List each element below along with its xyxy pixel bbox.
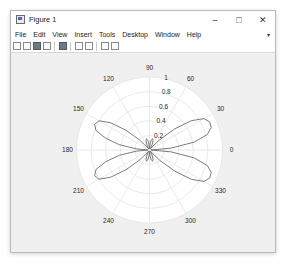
menu-window[interactable]: Window <box>155 31 180 38</box>
theta-tick-label: 300 <box>185 217 196 224</box>
title-bar[interactable]: Figure 1 – □ ✕ <box>11 11 275 28</box>
theta-tick-label: 150 <box>73 105 84 112</box>
theta-tick-label: 240 <box>103 217 114 224</box>
toolbar-separator <box>70 42 71 51</box>
save-icon[interactable] <box>33 42 41 50</box>
window-controls: – □ ✕ <box>203 11 275 28</box>
plot-area: 03060901201501802102402703003300.20.40.6… <box>11 53 275 252</box>
theta-tick-label: 0 <box>230 146 234 153</box>
theta-tick-label: 120 <box>103 75 114 82</box>
theta-tick-label: 270 <box>144 228 155 235</box>
menu-tools[interactable]: Tools <box>99 31 115 38</box>
menu-bar: File Edit View Insert Tools Desktop Wind… <box>11 28 275 40</box>
r-tick-label: 0.4 <box>157 117 166 124</box>
r-tick-label: 1 <box>164 74 168 81</box>
minimize-button[interactable]: – <box>203 11 227 28</box>
menu-overflow-icon[interactable]: ▾ <box>267 31 270 38</box>
menu-help[interactable]: Help <box>187 31 201 38</box>
edit-plot-icon[interactable] <box>101 42 109 50</box>
theta-tick-label: 180 <box>62 146 73 153</box>
insert-colorbar-icon[interactable] <box>75 42 83 50</box>
theta-tick-label: 330 <box>215 187 226 194</box>
figure-window: Figure 1 – □ ✕ File Edit View Insert Too… <box>10 10 276 253</box>
link-plot-icon[interactable] <box>59 42 67 50</box>
theta-tick-label: 210 <box>73 187 84 194</box>
r-tick-label: 0.8 <box>162 88 171 95</box>
print-icon[interactable] <box>43 42 51 50</box>
maximize-button[interactable]: □ <box>227 11 251 28</box>
theta-tick-label: 60 <box>187 75 195 82</box>
close-button[interactable]: ✕ <box>251 11 275 28</box>
r-tick-label: 0.6 <box>159 103 168 110</box>
toolbar-separator <box>96 42 97 51</box>
toolbar-separator <box>54 42 55 51</box>
theta-tick-label: 90 <box>146 64 154 71</box>
open-file-icon[interactable] <box>23 42 31 50</box>
menu-edit[interactable]: Edit <box>33 31 45 38</box>
window-title: Figure 1 <box>29 15 57 24</box>
matlab-figure-icon <box>16 15 25 24</box>
new-figure-icon[interactable] <box>13 42 21 50</box>
menu-desktop[interactable]: Desktop <box>122 31 148 38</box>
theta-tick-label: 30 <box>217 105 225 112</box>
menu-file[interactable]: File <box>15 31 26 38</box>
open-property-inspector-icon[interactable] <box>111 42 119 50</box>
insert-legend-icon[interactable] <box>85 42 93 50</box>
toolbar <box>11 40 275 53</box>
menu-view[interactable]: View <box>52 31 67 38</box>
polar-axes[interactable]: 03060901201501802102402703003300.20.40.6… <box>11 53 277 254</box>
menu-insert[interactable]: Insert <box>74 31 92 38</box>
